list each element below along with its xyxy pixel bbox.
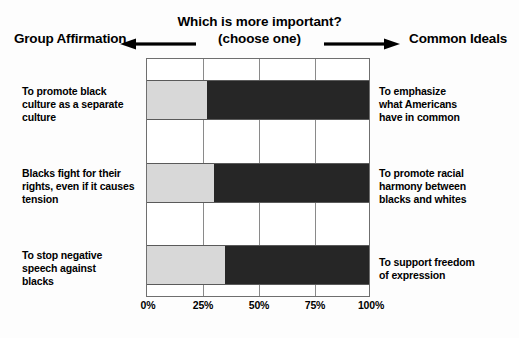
plot-area	[146, 58, 370, 297]
bar-segment-common-ideals-1	[207, 81, 369, 119]
chart-header: Which is more important? (choose one) Gr…	[0, 14, 519, 56]
bar-segment-common-ideals-2	[214, 164, 369, 202]
chart-root: Which is more important? (choose one) Gr…	[0, 0, 519, 338]
x-tick-50: 50%	[249, 299, 269, 311]
table-row	[147, 80, 369, 120]
category-label-right-2: To promote racial harmony between blacks…	[379, 167, 514, 206]
category-label-right-1: To emphasize what Americans have in comm…	[379, 85, 514, 124]
arrow-left-icon	[120, 38, 196, 50]
bar-segment-group-affirmation-1	[147, 81, 207, 119]
x-tick-100: 100%	[358, 299, 384, 311]
bar-segment-common-ideals-3	[225, 246, 369, 284]
chart-title: Which is more important?	[0, 14, 519, 29]
category-label-right-3: To support freedom of expression	[379, 256, 514, 282]
arrow-right-icon	[324, 38, 400, 50]
x-tick-25: 25%	[193, 299, 213, 311]
category-label-left-2: Blacks fight for their rights, even if i…	[22, 167, 144, 206]
x-tick-0: 0%	[141, 299, 156, 311]
bar-segment-group-affirmation-3	[147, 246, 225, 284]
x-tick-75: 75%	[305, 299, 325, 311]
bar-segment-group-affirmation-2	[147, 164, 214, 202]
table-row	[147, 245, 369, 285]
category-label-left-3: To stop negative speech against blacks	[22, 249, 144, 288]
category-label-left-1: To promote black culture as a separate c…	[22, 85, 144, 124]
table-row	[147, 163, 369, 203]
